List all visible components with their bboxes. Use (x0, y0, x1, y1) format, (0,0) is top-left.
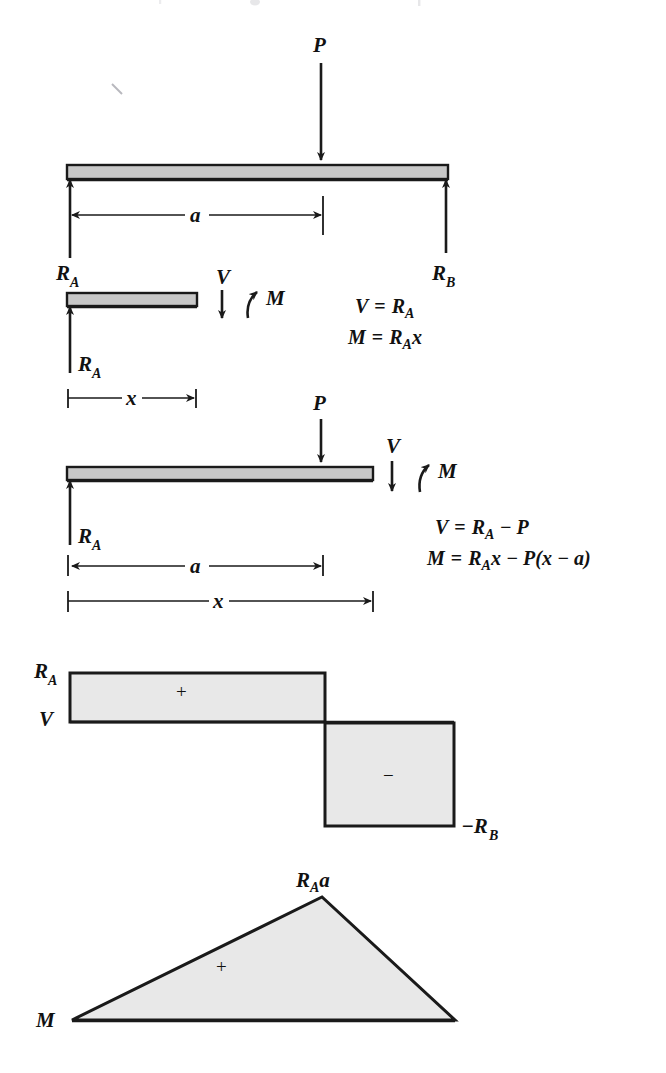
eq4-lhs: M (426, 547, 446, 569)
segment-two-moment-label-M: M (437, 459, 458, 483)
eq1-lhs: V (355, 295, 370, 317)
segment-one-beam-body (67, 293, 197, 306)
segment-two-dimension-a-group: a (68, 554, 323, 578)
shear-negative-sign: − (383, 765, 394, 786)
segment-two-dimension-a-label: a (190, 554, 201, 578)
eq2-rel: = (372, 326, 383, 348)
moment-peak-label-RAa: RAa (295, 868, 330, 895)
segment-one-equation-moment: M=RAx (347, 326, 422, 352)
segment-two-equation-moment: M=RAx − P(x − a) (426, 547, 591, 573)
shear-positive-block (70, 673, 325, 722)
segment-two-point-load-label-P: P (312, 391, 326, 415)
dimension-a-label: a (190, 203, 201, 227)
eq3-rel: = (454, 516, 465, 538)
moment-triangle-area (72, 897, 455, 1020)
shear-positive-sign: + (176, 681, 187, 702)
figure-canvas: P R A R B a (0, 0, 666, 1073)
eq2-lhs: M (347, 326, 367, 348)
segment-two-equation-shear: V=RA − P (435, 516, 530, 542)
moment-positive-sign: + (216, 956, 227, 977)
eq3-lhs: V (435, 516, 450, 538)
eq2-rhs: R (388, 326, 402, 348)
moment-axis-label-M: M (35, 1008, 56, 1032)
beam-body (67, 165, 448, 179)
eq4-rhs: R (467, 547, 481, 569)
eq4-rel: = (451, 547, 462, 569)
beam-diagram-figure: P R A R B a (0, 0, 666, 1073)
segment-two-reaction-label-RA-sub: A (91, 538, 101, 553)
eq4-rhs-tail: x − P(x − a) (490, 547, 591, 570)
segment-two-dimension-x-group: x (68, 589, 373, 613)
segment-one-dimension-x-group: x (68, 386, 196, 410)
shear-axis-label-V: V (39, 707, 55, 731)
reaction-label-RB-sub: B (445, 275, 455, 290)
eq3-rhs-tail: − P (494, 516, 529, 538)
segment-two-moment-arrow (419, 465, 429, 492)
shear-min-label-RB: −R (461, 814, 488, 838)
eq4-rhs-sub: A (481, 558, 491, 573)
eq1-rhs-sub: A (404, 306, 414, 321)
dimension-a-group: a (72, 196, 323, 235)
shear-min-label-RB-sub: B (488, 828, 498, 843)
segment-one-moment-arrow (247, 292, 257, 318)
segment-two-beam-body (67, 467, 373, 480)
reaction-label-RB: R (431, 261, 446, 285)
segment-one-reaction-label-RA-sub: A (91, 366, 101, 381)
moment-diagram-group: + RAa M (35, 868, 455, 1032)
eq2-rhs-sub: A (402, 337, 412, 352)
segment-two-shear-label-V: V (386, 434, 402, 458)
moment-peak-tail: a (319, 868, 330, 892)
free-body-segment-two-group: P R A V M a (67, 391, 591, 613)
eq3-rhs-sub: A (484, 527, 494, 542)
reaction-label-RA-sub: A (69, 275, 79, 290)
shear-diagram-group: + − R A V −R B (33, 659, 498, 843)
moment-peak-R: R (295, 868, 310, 892)
reaction-label-RA: R (55, 261, 70, 285)
scan-artifact-top-edge (159, 0, 420, 6)
eq1-rhs: R (391, 295, 405, 317)
segment-one-moment-label-M: M (265, 286, 286, 310)
eq2-rhs-tail: x (411, 326, 422, 348)
loaded-beam-group: P R A R B a (55, 33, 455, 290)
free-body-segment-one-group: R A V M x V=RA M=RAx (67, 265, 422, 410)
shear-peak-label-RA: R (33, 659, 48, 683)
segment-one-equation-shear: V=RA (355, 295, 414, 321)
segment-two-dimension-x-label: x (212, 589, 224, 613)
eq1-rel: = (374, 295, 385, 317)
scan-artifact-tickmark (112, 84, 122, 94)
eq3-rhs: R (471, 516, 485, 538)
segment-one-shear-label-V: V (216, 265, 232, 289)
shear-peak-label-RA-sub: A (47, 673, 57, 688)
segment-one-reaction-label-RA: R (77, 352, 92, 376)
moment-peak-sub: A (309, 880, 319, 895)
segment-one-dimension-x-label: x (125, 386, 137, 410)
segment-two-reaction-label-RA: R (77, 524, 92, 548)
point-load-label-P: P (312, 33, 326, 57)
